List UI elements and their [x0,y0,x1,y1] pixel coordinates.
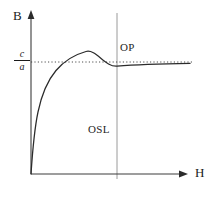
operating-point-label: OP [120,42,135,53]
fraction-numerator: c [14,49,30,60]
x-axis-arrowhead [179,171,188,178]
y-axis-label: B [13,9,22,22]
x-axis-label: H [195,166,204,179]
fraction-denominator: a [14,62,30,73]
y-axis-tick-c-over-a: c a [14,49,30,72]
magnetization-curve-figure: B H c a OP OSL [0,0,212,212]
magnetization-curve [31,51,190,174]
y-axis-arrowhead [28,10,35,19]
plot-canvas [0,0,212,212]
osl-region-label: OSL [88,124,110,135]
